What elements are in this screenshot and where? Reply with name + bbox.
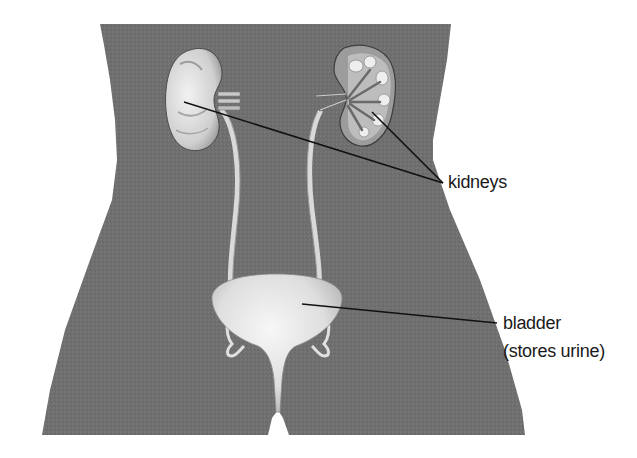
bladder-note-label: (stores urine) [503,340,605,362]
urinary-system-diagram [0,0,637,458]
body-silhouette [42,24,525,435]
kidneys-label: kidneys [448,171,507,193]
bladder-label: bladder [503,312,561,334]
